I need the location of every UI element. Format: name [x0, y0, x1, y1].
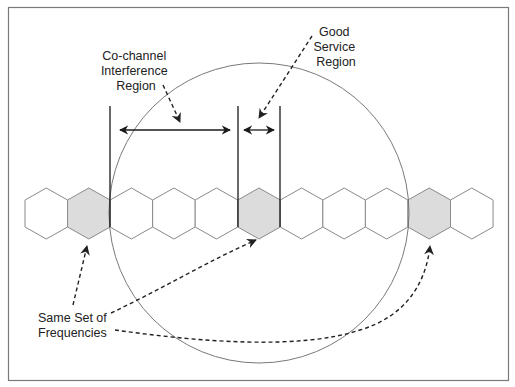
cell-row	[25, 188, 493, 239]
good-service-label: Good Service Region	[313, 25, 358, 69]
diagram-canvas: Co-channel Interference Region Good Serv…	[0, 0, 515, 387]
same-set-label: Same Set of Frequencies	[38, 311, 110, 340]
